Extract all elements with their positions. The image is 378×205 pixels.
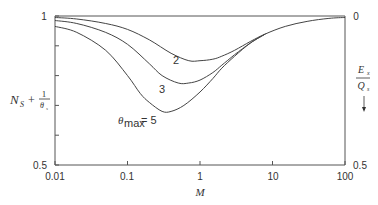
curve-series-1 — [55, 18, 345, 62]
curve-label-5-rest: = 5 — [138, 114, 157, 126]
left-y-ticks — [55, 16, 59, 165]
curve-series-2 — [55, 21, 266, 84]
curves — [55, 18, 345, 113]
y-tick-label-right-bottom: 0.5 — [353, 160, 367, 171]
y-tick-label-left-bottom: 0.5 — [33, 160, 47, 171]
x-ticks — [55, 161, 345, 165]
y-axis-label-left: N S + 1 θ s — [9, 89, 50, 111]
curve-label-3: 3 — [159, 83, 165, 95]
curve-label-2: 2 — [173, 54, 179, 66]
y-label-n: N — [9, 92, 20, 107]
x-tick-label: 0.01 — [45, 171, 65, 182]
down-arrow-head-icon — [362, 107, 366, 112]
y-label-n-sub: S — [20, 100, 24, 109]
y-label-frac-num: 1 — [42, 89, 47, 99]
x-tick-label: 10 — [267, 171, 279, 182]
chart: 1 0.5 0 0.5 N S + 1 θ s E x Q s 0.01 0.1… — [0, 0, 378, 205]
x-tick-label: 100 — [337, 171, 354, 182]
x-tick-label: 0.1 — [120, 171, 134, 182]
y-label-right-num: E — [357, 64, 364, 75]
x-tick-label: 1 — [197, 171, 203, 182]
curve-label-5: θ max = 5 — [118, 114, 157, 129]
y-axis-label-right: E x Q s — [356, 64, 370, 112]
y-label-frac-den: θ — [40, 101, 44, 110]
x-axis-label: M — [194, 186, 205, 198]
y-label-plus: + — [28, 93, 35, 107]
y-tick-label-right-top: 0 — [353, 11, 359, 22]
y-label-right-den-sub: s — [367, 86, 370, 92]
y-tick-label-left-top: 1 — [41, 11, 47, 22]
y-label-frac-den-sub: s — [46, 106, 48, 111]
y-label-right-num-sub: x — [366, 70, 370, 76]
curve-series-3 — [55, 26, 266, 112]
y-label-right-den: Q — [357, 80, 365, 91]
